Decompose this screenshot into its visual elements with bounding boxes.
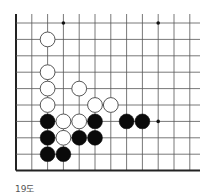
- star-point: [156, 21, 160, 25]
- diagram-caption: 19도: [15, 182, 34, 195]
- black-stone: [88, 114, 103, 129]
- black-stone: [88, 130, 103, 145]
- black-stone: [40, 114, 55, 129]
- black-stone: [119, 114, 134, 129]
- white-stone: [40, 98, 55, 113]
- white-stone: [88, 98, 103, 113]
- white-stone: [40, 32, 55, 47]
- black-stone: [135, 114, 150, 129]
- black-stone: [40, 130, 55, 145]
- white-stone: [56, 114, 71, 129]
- go-board-diagram: [0, 0, 215, 180]
- white-stone: [40, 81, 55, 96]
- star-point: [62, 21, 66, 25]
- black-stone: [40, 147, 55, 162]
- black-stone: [72, 130, 87, 145]
- white-stone: [56, 130, 71, 145]
- white-stone: [72, 81, 87, 96]
- white-stone: [72, 114, 87, 129]
- white-stone: [103, 98, 118, 113]
- white-stone: [40, 65, 55, 80]
- star-point: [156, 120, 160, 124]
- black-stone: [56, 147, 71, 162]
